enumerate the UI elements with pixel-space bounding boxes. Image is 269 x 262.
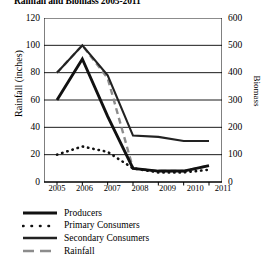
y-tick-left-120: 120 (6, 14, 40, 24)
x-tick-2005: 2005 (43, 184, 71, 193)
plot-area (44, 18, 222, 182)
chart-legend: Producers Primary Consumers Secondary Co… (22, 207, 252, 257)
y-tick-left-20: 20 (6, 150, 40, 160)
x-tick-2010: 2010 (181, 184, 209, 193)
legend-label-primary-consumers: Primary Consumers (64, 220, 140, 231)
x-tick-2011: 2011 (209, 184, 237, 193)
legend-key-primary-consumers (22, 220, 58, 232)
x-axis-ticks: 2005 2006 2007 2008 2009 2010 2011 (0, 184, 269, 198)
series-lines (57, 45, 209, 172)
chart-figure: Rainfall and Biomass 2005-2011 120 100 8… (0, 0, 269, 262)
y-axis-left-label: Rainfall (inches) (13, 24, 24, 144)
legend-item-producers: Producers (22, 207, 252, 220)
legend-key-producers (22, 207, 58, 219)
legend-label-rainfall: Rainfall (64, 246, 95, 257)
legend-key-secondary-consumers (22, 232, 58, 244)
legend-label-producers: Producers (64, 208, 102, 219)
y-axis-right-label: Biomass (252, 46, 262, 136)
legend-item-rainfall: Rainfall (22, 245, 252, 258)
series-line (57, 45, 209, 141)
plot-svg (44, 18, 222, 196)
legend-item-primary-consumers: Primary Consumers (22, 220, 252, 233)
x-tick-2009: 2009 (154, 184, 182, 193)
legend-item-secondary-consumers: Secondary Consumers (22, 232, 252, 245)
x-tick-2006: 2006 (71, 184, 99, 193)
y-tick-right-100: 100 (228, 150, 262, 160)
legend-label-secondary-consumers: Secondary Consumers (64, 233, 149, 244)
y-tick-right-600: 600 (228, 14, 262, 24)
gridlines (44, 18, 222, 182)
x-tick-2008: 2008 (126, 184, 154, 193)
x-tick-2007: 2007 (98, 184, 126, 193)
legend-key-rainfall (22, 245, 58, 257)
chart-title: Rainfall and Biomass 2005-2011 (14, 0, 254, 6)
